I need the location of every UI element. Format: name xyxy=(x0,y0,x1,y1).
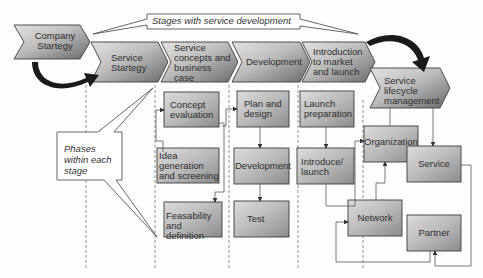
phase-development-label: Development xyxy=(235,161,289,171)
phase-service-label: Service xyxy=(407,159,461,169)
stage-company-label: Company Startegy xyxy=(30,31,80,51)
stage-development-label: Development xyxy=(246,57,306,67)
phase-concept-evaluation-label: Concept evaluation xyxy=(170,100,218,120)
stage-service-strategy-label: Service Startegy xyxy=(111,53,161,73)
stage-concepts-label: Service concepts and business case xyxy=(174,43,232,83)
phase-introduce-launch-label: Introduce/ launch xyxy=(301,157,351,177)
phase-organization-label: Organization xyxy=(364,137,420,147)
phases-callout-text: Phases within each stage xyxy=(64,143,120,176)
stage-introduction-label: Introduction to market and launch xyxy=(313,47,369,77)
phase-feasability-label: Feasability and definition xyxy=(166,211,222,241)
stages-callout-text: Stages with service development xyxy=(152,15,298,26)
phase-partner-label: Partner xyxy=(407,228,461,238)
phase-launch-preparation-label: Launch preparation xyxy=(304,99,354,119)
service-development-diagram: Stages with service development Phases w… xyxy=(0,0,483,278)
curved-arrow-right xyxy=(366,35,430,72)
curved-arrow-left xyxy=(32,62,99,88)
phase-idea-generation-label: Idea generation and screening xyxy=(159,151,219,181)
phase-network-label: Network xyxy=(348,213,402,223)
stage-lifecycle-label: Service lifecycle management xyxy=(384,76,440,106)
phase-plan-design-label: Plan and design xyxy=(244,99,288,119)
phase-test-label: Test xyxy=(247,214,277,224)
